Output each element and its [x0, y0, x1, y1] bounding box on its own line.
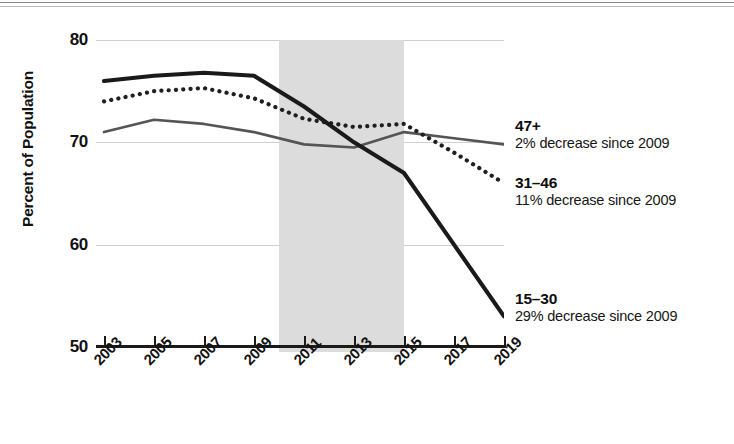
- series-line-31-46: [104, 88, 504, 183]
- series-change-note: 2% decrease since 2009: [515, 134, 669, 152]
- series-change-note: 29% decrease since 2009: [515, 307, 677, 325]
- series-annotation-15-30: 15–3029% decrease since 2009: [515, 290, 677, 325]
- y-axis-title: Percent of Population: [19, 39, 37, 259]
- series-change-note: 11% decrease since 2009: [515, 191, 676, 209]
- y-axis-tick-label: 50: [54, 337, 88, 357]
- series-line-47-plus: [104, 120, 504, 148]
- series-lines: [96, 34, 504, 352]
- y-axis-tick-label: 80: [54, 30, 88, 50]
- series-label: 15–30: [515, 290, 677, 307]
- line-chart-figure: Percent of Population 80706050 200320052…: [0, 0, 734, 444]
- series-annotation-31-46: 31–4611% decrease since 2009: [515, 174, 676, 209]
- series-label: 47+: [515, 117, 669, 134]
- y-axis-tick-label: 60: [54, 235, 88, 255]
- series-line-15-30: [104, 73, 504, 317]
- y-axis-tick-label: 70: [54, 132, 88, 152]
- series-label: 31–46: [515, 174, 676, 191]
- plot-area: [96, 34, 504, 352]
- series-annotation-47: 47+2% decrease since 2009: [515, 117, 669, 152]
